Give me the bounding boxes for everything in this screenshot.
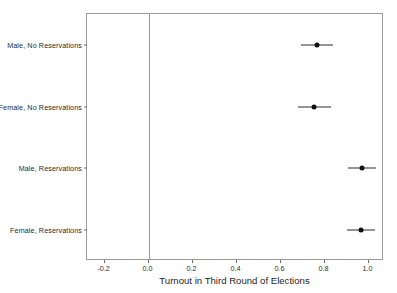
x-axis-tick bbox=[236, 260, 237, 263]
x-axis-tick bbox=[148, 260, 149, 263]
y-axis-category-label: Male, Reservations bbox=[19, 164, 87, 173]
estimate-point-marker bbox=[314, 42, 319, 47]
estimate-point-marker bbox=[359, 166, 364, 171]
coefficient-plot-figure: Male, No ReservationsFemale, No Reservat… bbox=[0, 0, 397, 293]
x-axis-tick-label: 0.2 bbox=[187, 264, 197, 273]
x-axis-tick bbox=[192, 260, 193, 263]
x-axis-tick bbox=[280, 260, 281, 263]
x-axis: -0.20.00.20.40.60.81.0 Turnout in Third … bbox=[86, 260, 383, 293]
x-axis-tick-label: 0.0 bbox=[143, 264, 153, 273]
x-axis-tick-label: 0.6 bbox=[275, 264, 285, 273]
y-axis-tick bbox=[84, 44, 87, 45]
x-axis-tick bbox=[368, 260, 369, 263]
y-axis-category-label: Female, No Reservations bbox=[0, 102, 87, 111]
x-axis-tick-label: 1.0 bbox=[363, 264, 373, 273]
x-axis-tick bbox=[324, 260, 325, 263]
zero-reference-line bbox=[149, 14, 150, 259]
x-axis-title: Turnout in Third Round of Elections bbox=[86, 275, 383, 286]
x-axis-tick bbox=[104, 260, 105, 263]
x-axis-tick-label: -0.2 bbox=[97, 264, 109, 273]
y-axis-tick bbox=[84, 106, 87, 107]
x-axis-tick-label: 0.4 bbox=[231, 264, 241, 273]
x-axis-tick-label: 0.8 bbox=[319, 264, 329, 273]
plot-panel: Male, No ReservationsFemale, No Reservat… bbox=[86, 13, 383, 260]
estimate-point-marker bbox=[358, 228, 363, 233]
y-axis-tick bbox=[84, 230, 87, 231]
y-axis-tick bbox=[84, 168, 87, 169]
y-axis-category-label: Female, Reservations bbox=[10, 226, 87, 235]
y-axis-category-label: Male, No Reservations bbox=[7, 40, 87, 49]
estimate-point-marker bbox=[311, 104, 316, 109]
